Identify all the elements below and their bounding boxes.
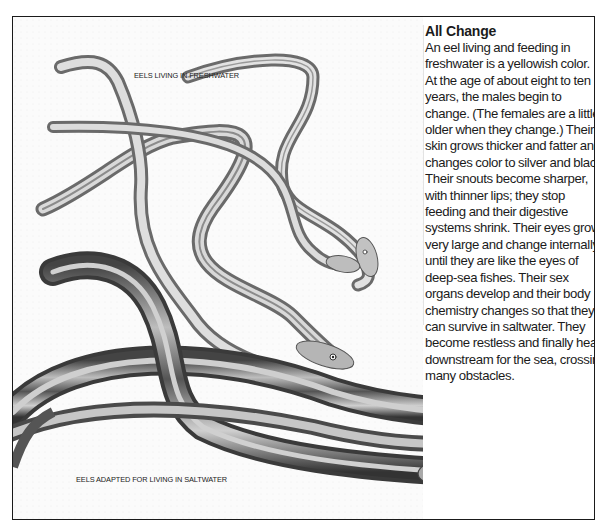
body-line: many obstacles. <box>425 368 595 384</box>
body-line: downstream for the sea, crossing <box>425 352 595 368</box>
article-sidebar: All Change An eel living and feeding in … <box>423 17 595 520</box>
body-line: changes color to silver and black. <box>425 155 595 171</box>
sidebar-divider <box>423 25 424 325</box>
body-line: Their snouts become sharper, <box>425 171 595 187</box>
body-line: until they are like the eyes of <box>425 253 595 269</box>
body-line: older when they change.) Their <box>425 122 595 138</box>
body-line: At the age of about eight to ten <box>425 73 595 89</box>
body-line: skin grows thicker and fatter and <box>425 138 595 154</box>
body-line: chemistry changes so that they <box>425 303 595 319</box>
body-line: feeding and their digestive <box>425 204 595 220</box>
article-title: All Change <box>425 23 595 40</box>
body-line: change. (The females are a little <box>425 106 595 122</box>
body-line: An eel living and feeding in <box>425 40 595 56</box>
page-top-margin <box>0 0 606 16</box>
body-line: systems shrink. Their eyes grow <box>425 220 595 236</box>
body-line: become restless and finally head <box>425 335 595 351</box>
article-text: All Change An eel living and feeding in … <box>425 23 595 385</box>
body-line: with thinner lips; they stop <box>425 188 595 204</box>
body-line: can survive in saltwater. They <box>425 319 595 335</box>
body-line: very large and change internally <box>425 237 595 253</box>
illustration-panel: EELS LIVING IN FRESHWATER EELS ADAPTED F… <box>12 16 595 520</box>
body-line: organs develop and their body <box>425 286 595 302</box>
label-freshwater-eels: EELS LIVING IN FRESHWATER <box>134 71 239 80</box>
article-body: An eel living and feeding in freshwater … <box>425 40 595 385</box>
body-line: freshwater is a yellowish color. <box>425 56 595 72</box>
label-saltwater-eels: EELS ADAPTED FOR LIVING IN SALTWATER <box>76 475 227 484</box>
body-line: years, the males begin to <box>425 89 595 105</box>
body-line: deep-sea fishes. Their sex <box>425 270 595 286</box>
